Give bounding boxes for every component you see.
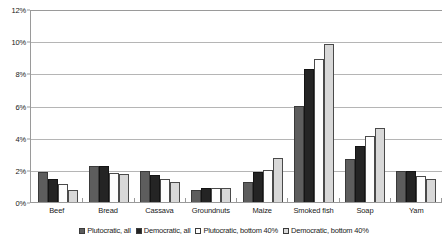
legend-item[interactable]: Plutocratic, all (79, 226, 131, 235)
bar-group (237, 10, 288, 202)
bar[interactable] (396, 171, 406, 202)
bar-group (391, 10, 442, 202)
bar[interactable] (38, 172, 48, 202)
bar-group-bars (191, 10, 231, 202)
y-axis-tick-label: 0% (16, 199, 26, 208)
bar[interactable] (243, 182, 253, 202)
bar-group (340, 10, 391, 202)
bar[interactable] (304, 69, 314, 202)
legend-item-label: Plutocratic, bottom 40% (203, 226, 278, 235)
x-axis-tick-label: Bread (82, 206, 133, 215)
bar[interactable] (263, 170, 273, 202)
bar-chart: 0%2%4%6%8%10%12% BeefBreadCassavaGroundn… (0, 0, 448, 243)
legend-item[interactable]: Democratic, bottom 40% (283, 226, 369, 235)
bar[interactable] (365, 136, 375, 202)
bar[interactable] (109, 173, 119, 202)
legend-swatch-icon (79, 228, 85, 234)
y-axis-tick-label: 8% (16, 70, 26, 79)
x-axis-labels: BeefBreadCassavaGroundnutsMaizeSmoked fi… (31, 206, 442, 215)
x-axis-tick-label: Yam (391, 206, 442, 215)
y-axis-tick-label: 2% (16, 166, 26, 175)
y-axis-tick-label: 6% (16, 102, 26, 111)
bar-group-bars (89, 10, 129, 202)
bar[interactable] (253, 172, 263, 202)
legend-swatch-icon (283, 228, 289, 234)
legend-swatch-icon (195, 228, 201, 234)
bar-group (135, 10, 186, 202)
y-axis-tick-label: 10% (12, 38, 26, 47)
bar-group-bars (294, 10, 334, 202)
bar[interactable] (99, 166, 109, 202)
bar-groups (32, 10, 442, 202)
y-axis-tick-label: 4% (16, 134, 26, 143)
bar[interactable] (426, 179, 436, 202)
bar[interactable] (89, 166, 99, 202)
bar[interactable] (221, 188, 231, 202)
x-axis-tick-label: Soap (339, 206, 390, 215)
x-axis-tick-label: Maize (237, 206, 288, 215)
bar[interactable] (150, 175, 160, 202)
x-axis-tick-label: Beef (31, 206, 82, 215)
x-axis-tick-label: Smoked fish (288, 206, 339, 215)
bar[interactable] (68, 190, 78, 202)
x-axis-tick-mark (441, 198, 442, 202)
bar-group (186, 10, 237, 202)
bar[interactable] (324, 44, 334, 202)
bar[interactable] (406, 171, 416, 202)
bar[interactable] (345, 159, 355, 202)
bar[interactable] (294, 106, 304, 203)
bar-group-bars (345, 10, 385, 202)
bar-group (288, 10, 339, 202)
bar[interactable] (119, 174, 129, 202)
legend-item-label: Democratic, bottom 40% (291, 226, 369, 235)
x-axis-tick-label: Cassava (134, 206, 185, 215)
bar-group-bars (396, 10, 436, 202)
x-axis-tick-label: Groundnuts (185, 206, 236, 215)
bar-group (83, 10, 134, 202)
chart-legend: Plutocratic, allDemocratic, allPlutocrat… (0, 226, 448, 235)
plot-area (30, 10, 442, 203)
legend-swatch-icon (136, 228, 142, 234)
bar-group-bars (38, 10, 78, 202)
bar-group-bars (243, 10, 283, 202)
bar[interactable] (140, 171, 150, 202)
bar[interactable] (191, 190, 201, 202)
legend-item-label: Democratic, all (144, 226, 191, 235)
bar[interactable] (355, 146, 365, 202)
legend-item[interactable]: Plutocratic, bottom 40% (195, 226, 278, 235)
legend-item[interactable]: Democratic, all (136, 226, 191, 235)
bar-group-bars (140, 10, 180, 202)
bar[interactable] (48, 179, 58, 202)
bar[interactable] (211, 188, 221, 202)
bar[interactable] (58, 184, 68, 202)
bar[interactable] (314, 59, 324, 202)
y-axis-tick-label: 12% (12, 6, 26, 15)
bar[interactable] (201, 188, 211, 202)
legend-item-label: Plutocratic, all (87, 226, 131, 235)
bar[interactable] (375, 128, 385, 202)
bar[interactable] (273, 158, 283, 202)
bar[interactable] (160, 179, 170, 202)
bar[interactable] (170, 182, 180, 202)
bar[interactable] (416, 176, 426, 202)
bar-group (32, 10, 83, 202)
y-axis: 0%2%4%6%8%10%12% (0, 10, 30, 203)
